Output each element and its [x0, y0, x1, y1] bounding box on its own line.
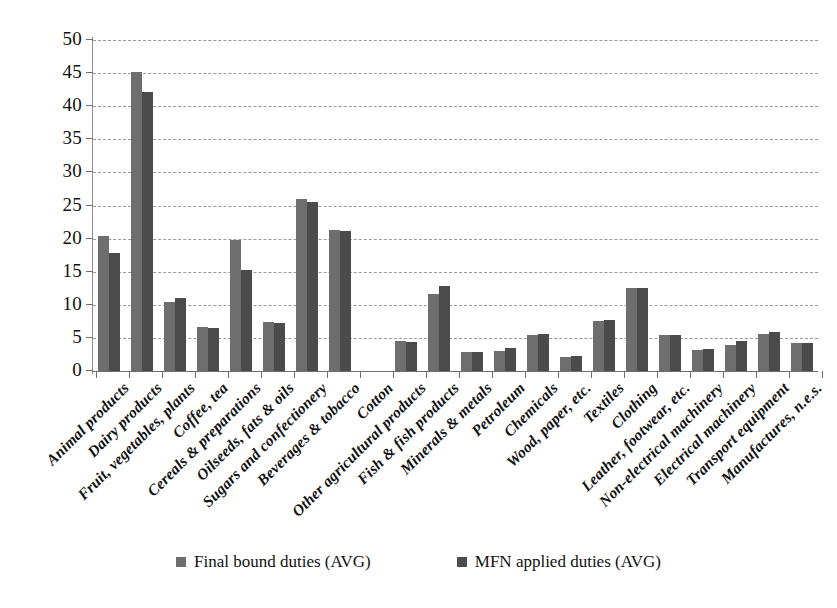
bar-group[interactable]	[294, 40, 327, 371]
x-axis-category-label: Cereals & preparations	[143, 379, 263, 499]
x-axis-category-label: Dairy products	[83, 379, 164, 460]
bar[interactable]	[461, 352, 472, 371]
x-axis-category-label: Beverages & tobacco	[253, 379, 363, 489]
bar[interactable]	[263, 322, 274, 371]
bar[interactable]	[670, 335, 681, 371]
x-tick-mark	[228, 371, 229, 378]
bar[interactable]	[791, 343, 802, 371]
x-axis-category-label: Clothing	[607, 379, 660, 432]
x-tick-mark	[393, 371, 394, 378]
x-tick-mark	[195, 371, 196, 378]
x-tick-mark	[657, 371, 658, 378]
bar[interactable]	[703, 349, 714, 372]
bar-group[interactable]	[558, 40, 591, 371]
x-tick-mark	[426, 371, 427, 378]
bar-group[interactable]	[360, 40, 393, 371]
bar-group[interactable]	[690, 40, 723, 371]
bar-group[interactable]	[756, 40, 789, 371]
bar-group[interactable]	[789, 40, 822, 371]
x-tick-mark	[459, 371, 460, 378]
bar[interactable]	[197, 327, 208, 371]
bar[interactable]	[241, 270, 252, 371]
x-axis-category-label: Leather, footwear, etc.	[577, 379, 692, 494]
x-axis-category-label: Manufactures, n.e.s.	[717, 379, 825, 487]
bar[interactable]	[725, 345, 736, 371]
bar[interactable]	[505, 348, 516, 371]
bar-group[interactable]	[195, 40, 228, 371]
x-tick-mark	[327, 371, 328, 378]
legend-swatch-icon	[457, 557, 467, 567]
bar[interactable]	[802, 343, 813, 371]
bar[interactable]	[758, 334, 769, 371]
x-tick-mark	[525, 371, 526, 378]
bar-group[interactable]	[492, 40, 525, 371]
x-axis-line	[92, 371, 818, 372]
bar-group[interactable]	[426, 40, 459, 371]
y-tick-label: 45	[32, 61, 82, 83]
bar[interactable]	[494, 351, 505, 371]
bar[interactable]	[208, 328, 219, 371]
legend-item-label: MFN applied duties (AVG)	[475, 552, 661, 572]
bar-group[interactable]	[657, 40, 690, 371]
x-tick-mark	[756, 371, 757, 378]
bar[interactable]	[142, 92, 153, 371]
x-axis-category-label: Electrical machinery	[649, 379, 759, 489]
bar-group[interactable]	[129, 40, 162, 371]
bar[interactable]	[593, 321, 604, 371]
x-axis-category-label: Other agricultural products	[288, 379, 429, 520]
bar[interactable]	[164, 302, 175, 372]
x-tick-mark	[822, 371, 823, 378]
bar[interactable]	[109, 253, 120, 371]
bar[interactable]	[472, 352, 483, 371]
bar[interactable]	[560, 357, 571, 371]
bar[interactable]	[307, 202, 318, 371]
legend-item[interactable]: Final bound duties (AVG)	[176, 552, 371, 572]
y-tick-label: 40	[32, 94, 82, 116]
bar[interactable]	[131, 72, 142, 371]
bar-group[interactable]	[624, 40, 657, 371]
bar[interactable]	[296, 199, 307, 371]
y-tick-label: 10	[32, 293, 82, 315]
bar[interactable]	[604, 320, 615, 371]
bar[interactable]	[527, 335, 538, 371]
bar-group[interactable]	[162, 40, 195, 371]
bar[interactable]	[395, 341, 406, 371]
bar[interactable]	[659, 335, 670, 371]
bar-group[interactable]	[459, 40, 492, 371]
legend-item[interactable]: MFN applied duties (AVG)	[457, 552, 661, 572]
y-tick-label: 0	[32, 359, 82, 381]
bar[interactable]	[637, 288, 648, 371]
bar[interactable]	[406, 342, 417, 371]
bar[interactable]	[340, 231, 351, 371]
bar-group[interactable]	[393, 40, 426, 371]
x-axis-category-label: Fish & fish products	[353, 379, 461, 487]
bar-group[interactable]	[327, 40, 360, 371]
bar-group[interactable]	[525, 40, 558, 371]
bar[interactable]	[692, 350, 703, 371]
x-tick-mark	[624, 371, 625, 378]
bar[interactable]	[98, 236, 109, 371]
bar[interactable]	[769, 332, 780, 371]
bar-group[interactable]	[228, 40, 261, 371]
x-axis-category-label: Wood, paper, etc.	[502, 379, 593, 470]
bar[interactable]	[274, 323, 285, 371]
tariff-duties-bar-chart: 05101520253035404550 Animal productsDair…	[0, 0, 837, 608]
bar[interactable]	[626, 288, 637, 371]
bar[interactable]	[428, 294, 439, 371]
bar-group[interactable]	[261, 40, 294, 371]
bar-group[interactable]	[723, 40, 756, 371]
bar[interactable]	[736, 341, 747, 371]
bars-layer	[92, 40, 818, 371]
x-axis-category-label: Petroleum	[467, 379, 527, 439]
bar[interactable]	[439, 286, 450, 371]
bar[interactable]	[230, 240, 241, 371]
bar-group[interactable]	[96, 40, 129, 371]
bar[interactable]	[538, 334, 549, 371]
bar[interactable]	[571, 356, 582, 371]
legend-swatch-icon	[176, 557, 186, 567]
y-tick-label: 50	[32, 28, 82, 50]
x-axis-category-label: Sugars and confectionery	[198, 379, 329, 510]
bar[interactable]	[329, 230, 340, 371]
bar-group[interactable]	[591, 40, 624, 371]
bar[interactable]	[175, 298, 186, 371]
